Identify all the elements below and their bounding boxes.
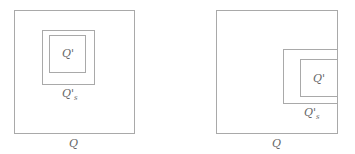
left-middle-label-base: Q' — [62, 87, 74, 100]
left-middle-label-sub: s — [74, 94, 78, 102]
left-inner-label: Q' — [62, 48, 74, 59]
right-outer-label: Q — [272, 138, 281, 149]
left-outer-label: Q — [69, 138, 78, 149]
right-middle-label: Q's — [304, 107, 320, 121]
right-inner-label: Q' — [313, 73, 325, 84]
right-middle-label-base: Q' — [304, 106, 316, 119]
left-middle-label: Q's — [62, 88, 78, 102]
right-middle-label-sub: s — [316, 113, 320, 121]
